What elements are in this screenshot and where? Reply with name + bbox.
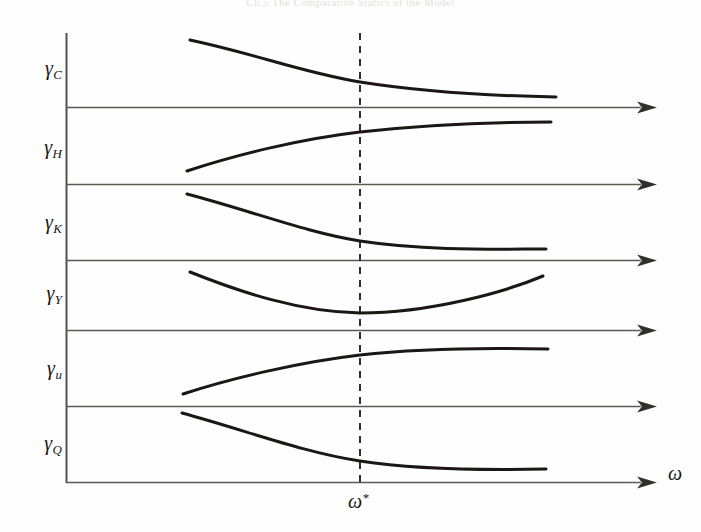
asterisk-superscript: * — [362, 490, 369, 505]
gamma-symbol-u: γ — [47, 357, 55, 379]
gamma-subscript-u: u — [55, 367, 62, 382]
omega-symbol: ω — [348, 490, 362, 512]
gamma-symbol-K: γ — [45, 211, 53, 233]
gamma-subscript-Q: Q — [52, 442, 62, 457]
axis-label-gamma-K: γK — [18, 212, 62, 235]
axis-label-omega: ω — [668, 463, 682, 483]
axis-label-gamma-H: γH — [18, 137, 62, 160]
gamma-subscript-K: K — [53, 221, 62, 236]
curve-gamma-Y — [190, 272, 543, 313]
axis-label-gamma-Q: γQ — [18, 433, 62, 456]
reference-label-omega-star: ω* — [348, 491, 369, 511]
curve-gamma-C — [190, 40, 556, 97]
axis-label-gamma-C: γC — [18, 58, 62, 81]
curve-gamma-H — [187, 122, 551, 171]
figure-container: Ch.5 The Comparative Statics of the Mode… — [0, 0, 701, 532]
curve-gamma-u — [183, 348, 548, 394]
comparative-statics-plot — [0, 0, 701, 532]
gamma-symbol-H: γ — [44, 136, 52, 158]
curve-gamma-Q — [182, 413, 546, 470]
gamma-subscript-Y: Y — [54, 292, 62, 307]
axis-label-gamma-Y: γY — [18, 283, 62, 306]
gamma-subscript-H: H — [52, 146, 62, 161]
gamma-symbol-Q: γ — [44, 432, 52, 454]
axis-label-gamma-u: γu — [18, 358, 62, 381]
gamma-subscript-C: C — [53, 67, 62, 82]
curve-gamma-K — [187, 194, 546, 249]
gamma-symbol-C: γ — [45, 57, 53, 79]
horizontal-axes — [66, 102, 657, 489]
